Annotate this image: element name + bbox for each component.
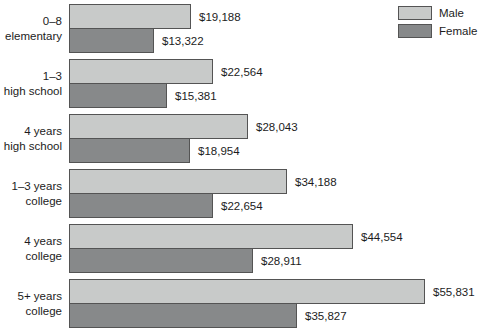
female-bar [69, 138, 190, 163]
legend-label-male: Male [439, 7, 464, 19]
category-label-line: 4 years [0, 124, 62, 139]
category-label-line: 0–8 [0, 14, 62, 29]
male-bar [69, 59, 213, 84]
bar-row-male: $22,564 [69, 59, 487, 84]
bar-row-male: $55,831 [69, 279, 487, 304]
bar-group: 4 yearscollege$44,554$28,911 [0, 224, 487, 273]
female-bar [69, 193, 213, 218]
bar-group: 5+ yearscollege$55,831$35,827 [0, 279, 487, 328]
bar-group: 1–3 yearscollege$34,188$22,654 [0, 169, 487, 218]
category-label-line: elementary [0, 29, 62, 44]
category-label: 1–3high school [0, 69, 62, 99]
female-value-label: $22,654 [221, 200, 263, 212]
category-label-line: college [0, 249, 62, 264]
female-value-label: $15,381 [175, 90, 217, 102]
male-value-label: $22,564 [221, 66, 263, 78]
legend-item-female: Female [398, 24, 477, 38]
male-value-label: $19,188 [199, 11, 241, 23]
category-label-line: 4 years [0, 234, 62, 249]
male-value-label: $34,188 [295, 176, 337, 188]
category-label: 0–8elementary [0, 14, 62, 44]
male-bar [69, 114, 248, 139]
male-bar [69, 169, 287, 194]
male-bar [69, 4, 191, 29]
male-value-label: $28,043 [256, 121, 298, 133]
category-label: 4 yearscollege [0, 234, 62, 264]
male-swatch-icon [398, 6, 432, 20]
bar-row-female: $22,654 [69, 193, 487, 218]
category-label-line: college [0, 304, 62, 319]
bar-chart: 0–8elementary$19,188$13,3221–3high schoo… [0, 0, 487, 331]
female-swatch-icon [398, 24, 432, 38]
category-label: 1–3 yearscollege [0, 179, 62, 209]
bar-row-male: $44,554 [69, 224, 487, 249]
category-label: 5+ yearscollege [0, 289, 62, 319]
female-value-label: $28,911 [261, 255, 302, 267]
bar-row-female: $18,954 [69, 138, 487, 163]
category-label-line: 5+ years [0, 289, 62, 304]
category-label-line: college [0, 194, 62, 209]
category-label-line: 1–3 [0, 69, 62, 84]
category-label-line: 1–3 years [0, 179, 62, 194]
legend: Male Female [398, 6, 477, 42]
bar-row-male: $28,043 [69, 114, 487, 139]
plot-area: 0–8elementary$19,188$13,3221–3high schoo… [0, 4, 487, 331]
female-bar [69, 303, 297, 328]
bar-row-female: $15,381 [69, 83, 487, 108]
female-bar [69, 28, 154, 53]
bar-row-female: $35,827 [69, 303, 487, 328]
female-bar [69, 248, 253, 273]
male-value-label: $44,554 [361, 231, 403, 243]
category-label: 4 yearshigh school [0, 124, 62, 154]
category-label-line: high school [0, 139, 62, 154]
female-value-label: $18,954 [198, 145, 240, 157]
male-bar [69, 279, 425, 304]
bar-row-female: $28,911 [69, 248, 487, 273]
male-value-label: $55,831 [433, 286, 475, 298]
bar-row-male: $34,188 [69, 169, 487, 194]
male-bar [69, 224, 353, 249]
category-label-line: high school [0, 84, 62, 99]
female-value-label: $13,322 [162, 35, 204, 47]
bar-group: 4 yearshigh school$28,043$18,954 [0, 114, 487, 163]
legend-item-male: Male [398, 6, 477, 20]
legend-label-female: Female [439, 25, 477, 37]
bar-group: 1–3high school$22,564$15,381 [0, 59, 487, 108]
female-bar [69, 83, 167, 108]
female-value-label: $35,827 [305, 310, 347, 322]
